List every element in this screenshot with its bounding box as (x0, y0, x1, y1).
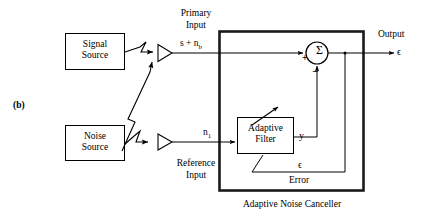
adaptive-filter-label: Adaptive Filter (237, 123, 294, 145)
error-symbol-label: ϵ (298, 159, 302, 170)
output-label: Output (378, 29, 404, 40)
reference-input-label: Reference Input (177, 158, 216, 181)
summer-plus-sign: + (302, 52, 308, 63)
reference-signal-subscript: 1 (208, 132, 212, 140)
primary-signal-subscript: b (199, 43, 203, 51)
error-feedback-line (252, 53, 345, 172)
primary-signal-label: s + nb (180, 38, 202, 53)
panel-label: (b) (13, 100, 25, 111)
output-symbol-label: ϵ (397, 46, 401, 57)
summing-junction-symbol: Σ (316, 45, 323, 56)
figure-caption: Adaptive Noise Canceller (243, 199, 341, 210)
error-text-label: Error (289, 175, 309, 186)
summer-minus-sign: − (312, 66, 318, 77)
adaptive-noise-canceller-boundary (220, 32, 364, 191)
figure-canvas: (b) Signal Source Noise Source Adaptive … (0, 0, 425, 223)
noise-source-label: Noise Source (65, 131, 125, 153)
primary-input-label: Primary Input (181, 8, 212, 31)
signal-source-label: Signal Source (65, 39, 125, 61)
primary-sensor-triangle-icon (158, 45, 172, 62)
reference-sensor-triangle-icon (158, 134, 172, 150)
reference-signal-label: n1 (203, 127, 211, 142)
diagram-graphics (0, 0, 425, 223)
signal-to-primary-path (125, 42, 153, 52)
filter-output-label: y (299, 130, 304, 141)
